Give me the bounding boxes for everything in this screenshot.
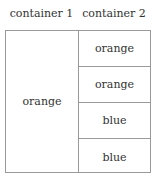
container-2-header: container 2 bbox=[78, 7, 150, 20]
container-2-item: blue bbox=[79, 103, 150, 139]
container-2: orange orange blue blue bbox=[79, 31, 150, 172]
item-label: blue bbox=[102, 114, 126, 127]
item-label: blue bbox=[102, 151, 126, 164]
item-label: orange bbox=[95, 78, 134, 91]
container-2-item: orange bbox=[79, 31, 150, 67]
container-2-item: blue bbox=[79, 139, 150, 175]
container-1-label: orange bbox=[22, 95, 61, 108]
item-label: orange bbox=[95, 42, 134, 55]
container-1: orange bbox=[6, 31, 79, 172]
containers-table: orange orange orange blue blue bbox=[5, 30, 151, 173]
container-2-item: orange bbox=[79, 67, 150, 103]
container-1-header: container 1 bbox=[5, 7, 78, 20]
